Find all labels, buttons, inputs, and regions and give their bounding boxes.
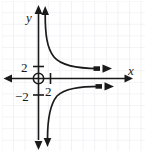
lower-branch-arrow-inner [96, 84, 103, 89]
coordinate-plane [0, 0, 147, 154]
y-axis-label: y [26, 11, 32, 24]
tick-label-y-2: 2 [21, 61, 28, 74]
graph-figure: y x 2 −2 2 [0, 0, 147, 154]
grid-background [2, 1, 145, 151]
x-axis-label: x [128, 64, 134, 77]
tick-label-x-2: 2 [45, 85, 52, 98]
upper-branch-arrow-inner [94, 66, 101, 71]
tick-label-y-minus-2: −2 [15, 90, 29, 103]
